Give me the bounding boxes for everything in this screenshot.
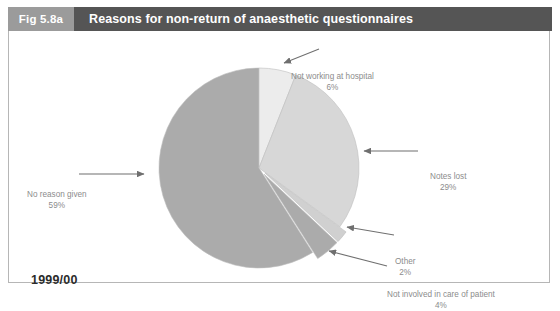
annotation-not-working-at-hospital: Not working at hospital 6% <box>291 71 374 93</box>
annotation-label: Not working at hospital <box>291 72 374 81</box>
figure-number-box: Fig 5.8a <box>8 7 74 31</box>
arrow-not-involved-in-care-of-patient <box>329 251 387 266</box>
annotation-percent: 4% <box>387 300 495 311</box>
annotation-percent: 59% <box>27 200 87 211</box>
arrow-not-working-at-hospital <box>284 49 319 63</box>
annotation-percent: 2% <box>395 267 415 278</box>
annotation-label: Notes lost <box>430 172 466 181</box>
chart-panel: Not working at hospital 6% Notes lost 29… <box>8 31 550 283</box>
year-label: 1999/00 <box>31 273 78 287</box>
annotation-label: No reason given <box>27 190 87 199</box>
arrow-other <box>347 227 394 235</box>
annotation-notes-lost: Notes lost 29% <box>430 171 466 193</box>
annotation-no-reason-given: No reason given 59% <box>27 189 87 211</box>
annotation-label: Not involved in care of patient <box>387 290 495 299</box>
figure-number-label: Fig 5.8a <box>19 13 63 25</box>
figure-title-box: Reasons for non-return of anaesthetic qu… <box>74 7 552 31</box>
annotation-other: Other 2% <box>395 256 415 278</box>
annotation-percent: 6% <box>291 82 374 93</box>
pie-chart <box>9 31 549 281</box>
annotation-not-involved-in-care-of-patient: Not involved in care of patient 4% <box>387 289 495 311</box>
annotation-percent: 29% <box>430 182 466 193</box>
figure-header: Fig 5.8a Reasons for non-return of anaes… <box>8 7 552 31</box>
annotation-label: Other <box>395 257 415 266</box>
figure-title-label: Reasons for non-return of anaesthetic qu… <box>89 12 413 26</box>
